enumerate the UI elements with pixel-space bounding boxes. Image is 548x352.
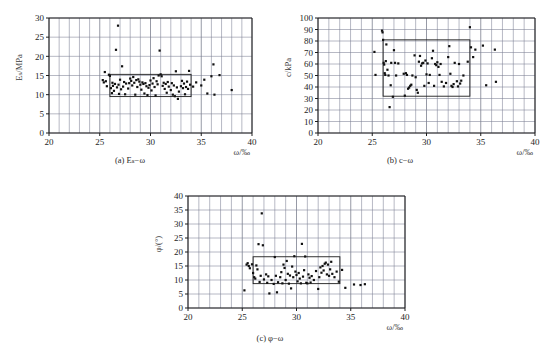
svg-text:40: 40 xyxy=(304,82,314,92)
svg-text:25: 25 xyxy=(368,137,378,147)
svg-text:50: 50 xyxy=(304,71,314,81)
x-axis-label: ω/‰ xyxy=(517,147,534,157)
svg-text:35: 35 xyxy=(197,137,207,147)
svg-text:20: 20 xyxy=(174,247,184,257)
svg-text:40: 40 xyxy=(401,312,411,322)
grid-lines xyxy=(49,18,252,133)
svg-text:25: 25 xyxy=(35,32,45,42)
svg-text:35: 35 xyxy=(346,312,356,322)
svg-text:20: 20 xyxy=(45,137,55,147)
svg-text:20: 20 xyxy=(184,312,194,322)
svg-text:30: 30 xyxy=(174,219,184,229)
y-axis-ticks: 0102030405060708090100 xyxy=(300,13,319,138)
svg-text:20: 20 xyxy=(35,52,45,62)
svg-text:30: 30 xyxy=(304,94,314,104)
svg-text:100: 100 xyxy=(300,13,314,23)
svg-text:30: 30 xyxy=(146,137,156,147)
x-axis-ticks: 2025303540 xyxy=(314,133,541,147)
svg-text:30: 30 xyxy=(292,312,302,322)
chart-caption-b: (b) c−ω xyxy=(330,155,470,165)
svg-text:15: 15 xyxy=(174,261,184,271)
svg-text:25: 25 xyxy=(95,137,105,147)
svg-text:25: 25 xyxy=(238,312,248,322)
svg-text:20: 20 xyxy=(304,105,314,115)
svg-text:25: 25 xyxy=(174,233,184,243)
scatter-plot-c: 20253035400510152025303540φ/(°)ω/‰ xyxy=(140,182,418,334)
svg-text:35: 35 xyxy=(174,205,184,215)
svg-text:60: 60 xyxy=(304,59,314,69)
chart-panel-c: 20253035400510152025303540φ/(°)ω/‰ xyxy=(140,182,418,334)
y-axis-label: Eₛ/MPa xyxy=(14,54,24,81)
chart-caption-c: (c) φ−ω xyxy=(200,333,340,343)
x-axis-label: ω/‰ xyxy=(387,322,404,332)
svg-text:5: 5 xyxy=(179,289,184,299)
svg-text:70: 70 xyxy=(304,48,314,58)
y-axis-ticks: 051015202530 xyxy=(35,13,49,138)
svg-text:5: 5 xyxy=(40,109,45,119)
svg-text:10: 10 xyxy=(35,90,45,100)
scatter-plot-b: 20253035400102030405060708090100c/kPaω/‰ xyxy=(270,2,548,157)
y-axis-label: φ/(°) xyxy=(153,236,163,252)
svg-text:0: 0 xyxy=(179,303,184,313)
svg-text:80: 80 xyxy=(304,36,314,46)
x-axis-label: ω/‰ xyxy=(234,147,251,157)
svg-text:90: 90 xyxy=(304,25,314,35)
svg-text:0: 0 xyxy=(40,128,45,138)
grid-lines xyxy=(188,196,405,308)
svg-text:20: 20 xyxy=(314,137,324,147)
scatter-plot-a: 2025303540051015202530Eₛ/MPaω/‰ xyxy=(0,2,270,157)
grid-lines xyxy=(318,18,535,133)
svg-text:35: 35 xyxy=(476,137,486,147)
data-points xyxy=(243,212,366,294)
svg-text:40: 40 xyxy=(174,191,184,201)
svg-text:15: 15 xyxy=(35,71,45,81)
y-axis-label: c/kPa xyxy=(283,58,293,77)
svg-text:30: 30 xyxy=(35,13,45,23)
x-axis-ticks: 2025303540 xyxy=(184,308,411,322)
svg-text:30: 30 xyxy=(422,137,432,147)
data-points xyxy=(102,25,233,100)
svg-text:10: 10 xyxy=(304,117,314,127)
chart-panel-b: 20253035400102030405060708090100c/kPaω/‰ xyxy=(270,2,548,157)
chart-panel-a: 2025303540051015202530Eₛ/MPaω/‰ xyxy=(0,2,270,157)
chart-caption-a: (a) Eₛ−ω xyxy=(60,155,200,165)
x-axis-ticks: 2025303540 xyxy=(45,133,258,147)
svg-text:40: 40 xyxy=(531,137,541,147)
svg-text:0: 0 xyxy=(309,128,314,138)
svg-text:40: 40 xyxy=(248,137,258,147)
y-axis-ticks: 0510152025303540 xyxy=(174,191,188,313)
svg-text:10: 10 xyxy=(174,275,184,285)
